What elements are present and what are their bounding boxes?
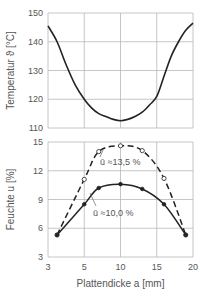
y-tick-label: 120 [28, 94, 43, 104]
data-point-marker [82, 202, 86, 206]
data-point-marker [162, 176, 166, 180]
annotation-mean-13-5: ū ≈13,5 % [100, 157, 140, 167]
x-tick-label: 10 [115, 262, 125, 272]
x-axis-label: Plattendicke a [mm] [77, 278, 165, 289]
data-point-marker [140, 187, 144, 191]
y-tick-label: 130 [28, 66, 43, 76]
data-point-marker [97, 186, 101, 190]
y-tick-label: 140 [28, 37, 43, 47]
x-tick-label: 5 [82, 262, 87, 272]
x-tick-label: 15 [152, 262, 162, 272]
data-point-marker [118, 144, 122, 148]
data-point-marker [97, 149, 101, 153]
y-tick-label: 6 [38, 223, 43, 233]
y-tick-label: 12 [33, 166, 43, 176]
chart-figure: 110120130140150Temperatur ϑ [°C]3691215F… [0, 0, 200, 297]
data-point-marker [82, 177, 86, 181]
y-tick-label: 150 [28, 8, 43, 18]
y-tick-label: 3 [38, 252, 43, 262]
moisture-panel: 3691215Feuchte u [%]ū ≈13,5 %ū ≈10,0 % [5, 137, 193, 262]
y-tick-label: 15 [33, 137, 43, 147]
y-axis-label: Temperatur ϑ [°C] [5, 31, 16, 110]
x-tick-label: 3 [45, 262, 50, 272]
data-point-marker [119, 182, 123, 186]
y-axis-label: Feuchte u [%] [5, 168, 16, 230]
data-point-marker [162, 202, 166, 206]
y-tick-label: 9 [38, 195, 43, 205]
x-tick-label: 20 [188, 262, 198, 272]
annotation-mean-10-0: ū ≈10,0 % [93, 208, 133, 218]
data-point-marker [55, 233, 59, 237]
temperature-panel: 110120130140150Temperatur ϑ [°C] [5, 8, 193, 133]
data-point-marker [140, 149, 144, 153]
y-tick-label: 110 [29, 123, 43, 133]
data-point-marker [184, 233, 188, 237]
